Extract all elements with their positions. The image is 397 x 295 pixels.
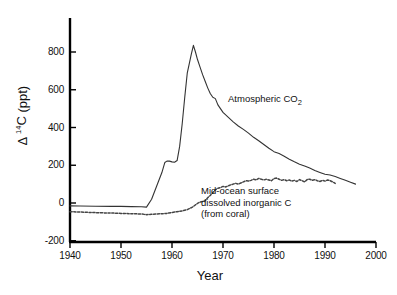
x-axis-title: Year (120, 268, 300, 283)
y-axis-title-delta: Δ (15, 138, 30, 146)
series-label-atmospheric-subscript: 2 (298, 98, 302, 107)
series-label-coral-line-3: (from coral) (201, 208, 291, 220)
series-label-atmospheric: Atmospheric CO2 (228, 93, 302, 108)
y-axis-title-isotope: 14C (15, 116, 30, 134)
chart-figure: -2000200400600800 1940195019601970198019… (0, 0, 397, 295)
y-tick-label: 0 (20, 197, 64, 208)
y-tick-label: -200 (20, 235, 64, 246)
series-line-atmospheric (70, 45, 356, 207)
series-label-coral-line-2: dissolved inorganic C (201, 197, 291, 209)
x-tick-label: 1950 (101, 250, 141, 261)
x-tick-label: 2000 (356, 250, 396, 261)
y-axis-title-units: (ppt) (15, 86, 30, 113)
x-tick-label: 1940 (50, 250, 90, 261)
x-tick-label: 1990 (305, 250, 345, 261)
y-axis-title: Δ 14C (ppt) (14, 56, 29, 176)
series-label-coral: Mid-ocean surface dissolved inorganic C … (201, 185, 291, 220)
series-label-coral-line-1: Mid-ocean surface (201, 185, 291, 197)
x-tick-label: 1980 (254, 250, 294, 261)
series-label-atmospheric-text: Atmospheric CO (228, 93, 298, 104)
x-tick-label: 1960 (152, 250, 192, 261)
x-tick-label: 1970 (203, 250, 243, 261)
